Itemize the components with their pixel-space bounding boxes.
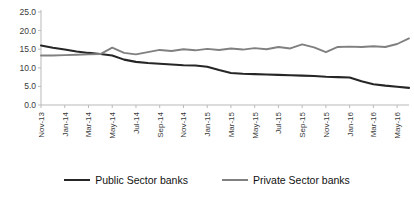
x-axis-tick-label: May-16	[393, 111, 402, 138]
legend-label-public-sector-banks: Public Sector banks	[95, 174, 188, 186]
series-line-public-sector-banks	[41, 45, 409, 87]
series-lines	[41, 38, 409, 87]
legend-swatch-private-sector-banks	[222, 179, 248, 181]
line-chart: 0.05.010.015.020.025.0 Nov-13Jan-14Mar-1…	[0, 0, 414, 197]
x-axis-tick-label: Sep-15	[298, 111, 307, 137]
legend-item-private-sector-banks[interactable]: Private Sector banks	[222, 174, 350, 186]
x-axis-tick-labels: Nov-13Jan-14Mar-14May-14Jul-14Sep-14Nov-…	[37, 111, 402, 138]
x-axis-tick-label: Mar-14	[84, 111, 93, 137]
y-axis-tick-label: 25.0	[19, 7, 36, 17]
y-axis-tick-label: 20.0	[19, 26, 36, 36]
x-axis-tick-label: Jul-15	[274, 111, 283, 133]
chart-legend: Public Sector banks Private Sector banks	[0, 163, 414, 197]
plot-area: 0.05.010.015.020.025.0 Nov-13Jan-14Mar-1…	[0, 0, 414, 160]
x-axis-tick-label: Jul-14	[132, 111, 141, 133]
y-axis-tick-label: 0.0	[24, 100, 36, 110]
x-axis-tick-label: Sep-14	[156, 111, 165, 137]
y-axis-tick-label: 5.0	[24, 81, 36, 91]
x-axis-tick-label: Nov-15	[322, 111, 331, 137]
x-axis-tick-label: Jan-16	[346, 111, 355, 136]
legend-item-public-sector-banks[interactable]: Public Sector banks	[64, 174, 188, 186]
x-axis-tick-label: May-14	[108, 111, 117, 138]
x-axis-tick-label: Jan-14	[61, 111, 70, 136]
y-axis-tick-label: 10.0	[19, 63, 36, 73]
y-axis-tick-label: 15.0	[19, 44, 36, 54]
x-axis-tick-label: Jan-15	[203, 111, 212, 136]
x-axis-tick-label: Nov-14	[179, 111, 188, 137]
x-axis-tick-label: Mar-15	[227, 111, 236, 137]
x-axis-tick-label: May-15	[251, 111, 260, 138]
chart-canvas: 0.05.010.015.020.025.0 Nov-13Jan-14Mar-1…	[0, 0, 414, 160]
y-axis-tick-labels: 0.05.010.015.020.025.0	[19, 7, 36, 110]
x-axis-tick-label: Nov-13	[37, 111, 46, 137]
legend-swatch-public-sector-banks	[64, 179, 90, 181]
legend-label-private-sector-banks: Private Sector banks	[253, 174, 350, 186]
x-axis-tick-label: Mar-16	[369, 111, 378, 137]
